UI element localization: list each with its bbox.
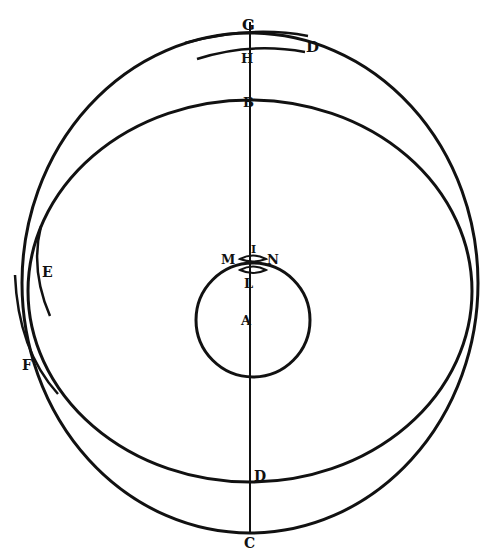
lens-lower: [240, 267, 266, 274]
label-l: L: [244, 276, 253, 291]
label-n: N: [267, 252, 279, 267]
label-f: F: [22, 357, 32, 373]
geometric-diagram: G H D B I M N L A E F D C: [0, 0, 490, 551]
label-m: M: [221, 252, 235, 267]
label-h: H: [241, 51, 253, 66]
label-a: A: [240, 313, 252, 328]
label-d-top: D: [306, 38, 319, 56]
label-c: C: [244, 535, 255, 551]
label-i: I: [251, 243, 256, 256]
label-g: G: [242, 16, 255, 34]
lens-upper: [240, 256, 266, 262]
label-d-bottom: D: [254, 468, 266, 484]
label-e: E: [42, 264, 53, 280]
label-b: B: [243, 95, 254, 110]
